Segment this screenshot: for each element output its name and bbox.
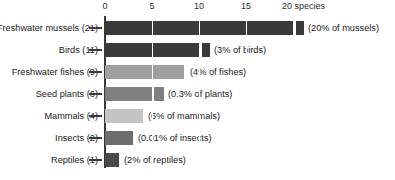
axis-tick-label-0: 0 bbox=[102, 1, 107, 12]
axis-tick-label-15: 15 bbox=[241, 1, 251, 12]
row-tick-dash bbox=[89, 93, 102, 95]
bar-row-label: Freshwater mussels (21) bbox=[0, 18, 98, 38]
bar-value-annotation: (0.3% of plants) bbox=[168, 84, 232, 104]
axis-tick-label-10: 10 bbox=[194, 1, 204, 12]
bar bbox=[105, 21, 294, 35]
bar-value-annotation: (2% of reptiles) bbox=[124, 150, 186, 170]
bar-overflow-cap bbox=[296, 21, 304, 35]
bar-row: Seed plants (6) (0.3% of plants) bbox=[0, 84, 395, 104]
row-tick-dash bbox=[89, 71, 102, 73]
bar bbox=[105, 153, 119, 167]
axis-tick-label-5: 5 bbox=[149, 1, 154, 12]
bar-row: Mammals (4) (6% of mammals) bbox=[0, 106, 395, 126]
row-tick-dash bbox=[89, 137, 102, 139]
bar bbox=[105, 65, 184, 79]
bar-value-annotation: (3% of birds) bbox=[214, 40, 266, 60]
bar-row: Insects (2) (0.01% of insects) bbox=[0, 128, 395, 148]
bar-overflow-cap bbox=[154, 87, 164, 101]
bar-row: Freshwater fishes (9) (4% of fishes) bbox=[0, 62, 395, 82]
bar-row: Freshwater mussels (21) (20% of mussels) bbox=[0, 18, 395, 38]
row-tick-dash bbox=[89, 49, 102, 51]
bar-chart: 0 5 10 15 20 species Freshwater mussels … bbox=[0, 0, 395, 180]
gridline-20 bbox=[293, 16, 294, 168]
gridline-15 bbox=[246, 16, 247, 168]
axis-tick-label-20-species: 20 species bbox=[282, 1, 325, 12]
bar-row-label: Freshwater fishes (9) bbox=[12, 62, 98, 82]
bar bbox=[105, 87, 152, 101]
gridline-10 bbox=[199, 16, 200, 168]
bar bbox=[105, 131, 133, 145]
plot-area: Freshwater mussels (21) (20% of mussels)… bbox=[0, 16, 395, 180]
bar-overflow-cap bbox=[202, 43, 210, 57]
row-tick-dash bbox=[89, 115, 102, 117]
bar-row: Birds (11) (3% of birds) bbox=[0, 40, 395, 60]
bar bbox=[105, 109, 143, 123]
bar-value-annotation: (0.01% of insects) bbox=[138, 128, 212, 148]
bar-row: Reptiles (1) (2% of reptiles) bbox=[0, 150, 395, 170]
row-tick-dash bbox=[89, 159, 102, 161]
row-tick-dash bbox=[89, 27, 102, 29]
bar bbox=[105, 43, 200, 57]
bar-value-annotation: (20% of mussels) bbox=[308, 18, 379, 38]
bar-value-annotation: (6% of mammals) bbox=[148, 106, 220, 126]
gridline-5 bbox=[152, 16, 153, 168]
